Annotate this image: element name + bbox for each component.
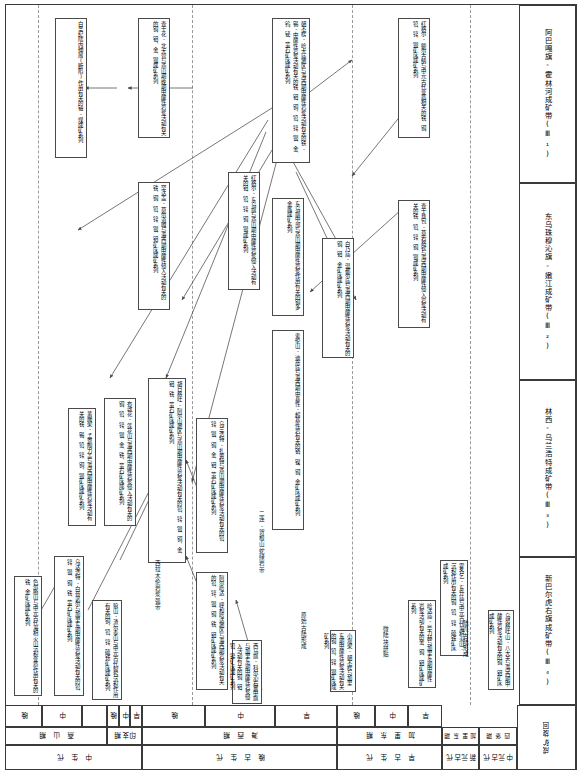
timescale-era-label: 晚 古 生 代 bbox=[214, 753, 265, 763]
ore-series-box: 狼山-渣尔泰山与中元古代裂谷沉积作用有关的铜、铅、锌、硫铁矿床成矿系列 bbox=[92, 600, 122, 700]
timescale-orogeny-label: 四 堡 期 bbox=[486, 732, 510, 740]
belt-header-label: 林西-乌兰浩特成矿带(Ⅲ₃) bbox=[542, 407, 553, 530]
timescale-epoch-cell: 中 bbox=[375, 705, 408, 727]
ore-series-box: 西乌旗-科尔沁右翼中旗与加里东期中酸性岩浆侵入活动有关的铜、钼、铅、锌矿床成矿系… bbox=[232, 640, 262, 704]
timescale-orogeny-label: 加 里 东 期 bbox=[444, 732, 476, 740]
timescale-orogeny-subcell: 四 堡 期 bbox=[479, 727, 517, 745]
tectonic-label-ophiolite: 二连-贺根山蛇绿岩带 bbox=[258, 510, 266, 620]
ore-series-text: 查干花-北大营与燕山期晚期中酸性岩浆活动有关的铜、钼、金、银成矿系列 bbox=[141, 21, 167, 136]
belt-header-III-2: 东乌珠穆沁旗-嫩江成矿带(Ⅲ₂) bbox=[519, 183, 576, 380]
timescale-epoch-cell: 中 bbox=[119, 705, 130, 727]
ore-series-text: 乌达浩特-白音诺尔与加里东期中酸性岩浆活动有关的铅、锌、银、铜、铁、萤石矿床成矿… bbox=[57, 559, 81, 694]
timescale-orogeny-label: 印支期 bbox=[113, 731, 136, 741]
ore-series-text: 胡日格吐-阿尔山地区与燕山期中酸性岩浆活动有关的铅、锌、银、铜、金、钼、铁、萤石… bbox=[151, 381, 183, 561]
ore-series-box: 白乃庙-温都尔庙与海西期中酸性岩浆活动有关的铜、钼、金矿床成矿系列 bbox=[322, 238, 354, 358]
ore-series-box: 哈达庙-毕力赫与加里东期中酸性岩浆活动有关的金、铜、钼矿床成矿系列 bbox=[408, 600, 436, 688]
timescale-era-cell: 中 生 代 bbox=[5, 745, 142, 770]
ore-series-box: 乌达浩特-白音诺尔与加里东期中酸性岩浆活动有关的铅、锌、银、铜、铁、萤石矿床成矿… bbox=[54, 556, 84, 696]
belt-header-label: 东乌珠穆沁旗-嫩江成矿带(Ⅲ₂) bbox=[542, 212, 553, 352]
tectonic-label-continent-formed: 陆壳古陆形成 bbox=[462, 620, 470, 690]
timescale-orogeny-label: 加 里 东 期 bbox=[364, 731, 415, 741]
ore-series-box: 罕达盖-莫尔道嘎与海西期中酸性侵入活动有关的铁、铜、铅、锌、银、钼矿床成矿系列 bbox=[138, 182, 170, 310]
timescale-epoch-label: 早 bbox=[301, 711, 310, 721]
ore-series-text: 红格尔-额尔古纳与中元古代变质相关的铁、铜、铅、锌、银矿床成矿系列 bbox=[401, 21, 427, 136]
ore-series-box: 阿尔哈达-呼和哈达地区与海西期岩浆活动有关的铅、锌、银、铜、铁、钼矿床成矿系列 bbox=[196, 572, 228, 690]
timescale-epoch-cell: 晚 bbox=[142, 705, 205, 727]
timescale-epoch-cell: 早 bbox=[130, 705, 142, 727]
ore-series-box: 小坝梁-朝不楞与加里东期中酸性岩浆活动有关的铜、铅、锌、银矿床成矿系列 bbox=[330, 630, 356, 692]
belt-header-label: 新巴尔虎右旗成矿带(Ⅲ₄) bbox=[542, 574, 553, 687]
timescale-era-label: 中 生 代 bbox=[55, 753, 92, 763]
timescale-era-cell: 早 古 生 代 bbox=[337, 745, 442, 770]
timescale-epoch-cell: 晚 bbox=[107, 705, 119, 727]
timescale-era-cell: 中元古代 bbox=[479, 745, 517, 770]
timescale-epoch-cell: 早 bbox=[275, 705, 337, 727]
timescale-corner-label: 成矿旋回 bbox=[542, 720, 552, 754]
ore-series-box: 查干花-北大营与燕山期晚期中酸性岩浆活动有关的铜、钼、金、银成矿系列 bbox=[138, 18, 170, 138]
ore-series-box: 色尔腾山与中元古代海相火山沉积变质作用有关的铁、金矿床成矿系列 bbox=[14, 576, 42, 696]
ore-series-text: 罕达盖-莫尔道嘎与海西期中酸性侵入活动有关的铁、铜、铅、锌、银、钼矿床成矿系列 bbox=[141, 185, 167, 308]
ore-series-text: 乌努格吐山-八大关与海西期中酸性岩浆活动有关的铜、钼矿床成矿系列 bbox=[491, 613, 511, 688]
ore-series-text: 朝不楞-哈大庙地区与海西期中酸性岩浆活动有关的铁-锡-中酸性岩浆活动有关的铁、钼… bbox=[275, 21, 307, 161]
timescale-orogeny-label: 海 西 期 bbox=[221, 731, 258, 741]
timescale-orogeny-cell: 印支期 bbox=[107, 727, 142, 745]
timescale-era-cell: 晚 古 生 代 bbox=[142, 745, 337, 770]
ore-series-box: 红格尔-东乌旗与燕山期中酸性岩浆侵入活动有关的钼、铅、锌、铜、银成矿系列 bbox=[228, 172, 260, 290]
timescale-epoch-label: 中 bbox=[235, 711, 244, 721]
timescale-epoch-cell: 中 bbox=[42, 705, 82, 727]
belt-header-III-1: 阿巴嘎旗-霍林河成矿带(Ⅲ₁) bbox=[519, 5, 576, 183]
timescale-orogeny-cell: 海 西 期 bbox=[142, 727, 337, 745]
metallogenic-evolution-figure: 白垩纪陆内伸展(断陷)作用有关的铀-煤成矿系列 查干花-北大营与燕山期晚期中酸性… bbox=[0, 0, 582, 777]
timescale-epoch-cell: 晚 bbox=[337, 705, 375, 727]
tectonic-label-primitive-continent: 原始古陆形成 bbox=[300, 612, 308, 682]
ore-series-box: 乌兰浩特-扎赉特与燕山期中酸性岩浆活动有关的铅、锌、银、铜、金、钼、萤石矿床成矿… bbox=[196, 418, 228, 553]
ore-series-box: 布敦花-莲花山与海西期中酸性岩浆侵入活动有关的铜、铅、锌、银、金、铁、萤石矿床成… bbox=[104, 398, 136, 526]
ore-series-text: 查干敖包-莫若格钦与海西期中酸性侵入岩浆活动有关的铁、铅、锌、铜、银成矿系列 bbox=[401, 203, 427, 326]
ore-series-text: 哈达庙-毕力赫与加里东期中酸性岩浆活动有关的金、铜、钼矿床成矿系列 bbox=[411, 603, 433, 686]
ore-series-text: 小坝梁-朝不楞与加里东期中酸性岩浆活动有关的铜、铅、锌、银矿床成矿系列 bbox=[333, 633, 353, 690]
ore-series-text: 西乌旗-科尔沁右翼中旗与加里东期中酸性岩浆侵入活动有关的铜、钼、铅、锌矿床成矿系… bbox=[235, 643, 259, 702]
timescale-corner-cell: 成矿旋回 bbox=[517, 705, 576, 770]
ore-series-text: 索伦山-迪彦庙与海西期中基性-超基性岩有关的铬、镍、铜、金矿床成矿系列 bbox=[275, 333, 301, 528]
belt-header-III-3: 林西-乌兰浩特成矿带(Ⅲ₃) bbox=[519, 380, 576, 557]
ore-series-box: 胡日格吐-阿尔山地区与燕山期中酸性岩浆活动有关的铅、锌、银、铜、金、钼、铁、萤石… bbox=[148, 378, 186, 563]
timescale-epoch-label: 早 bbox=[420, 711, 429, 721]
timescale-epoch-cell: 中 bbox=[205, 705, 275, 727]
timescale-era-label: 早 古 生 代 bbox=[364, 753, 415, 763]
ore-series-box: 查干敖包-莫若格钦与海西期中酸性侵入岩浆活动有关的铁、铅、锌、铜、银成矿系列 bbox=[398, 200, 430, 328]
timescale-epoch-label: 早 bbox=[132, 711, 140, 721]
ore-series-box: 朝不楞-哈大庙地区与海西期中酸性岩浆活动有关的铁-锡-中酸性岩浆活动有关的铁、钼… bbox=[272, 18, 310, 163]
ore-series-box: 乌努格吐山-八大关与海西期中酸性岩浆活动有关的铜、钼矿床成矿系列 bbox=[488, 610, 514, 690]
ore-series-text: 色尔腾山与中元古代海相火山沉积变质作用有关的铁、金矿床成矿系列 bbox=[17, 579, 39, 694]
timescale-orogeny-cell: 加 里 东 期 bbox=[337, 727, 442, 745]
timescale-epoch-label: 中 bbox=[121, 711, 129, 721]
timescale-epoch-label: 晚 bbox=[351, 711, 360, 721]
ore-series-text: 黄岗梁-孟恩陶力盖与海西期中酸性岩浆活动有关的铁、锡、铅、锌、铜、银矿床成矿系列 bbox=[71, 411, 93, 524]
ore-series-box: 索伦山-迪彦庙与海西期中基性-超基性岩有关的铬、镍、铜、金矿床成矿系列 bbox=[272, 330, 304, 530]
timescale-orogeny-subcell: 加 里 东 期 bbox=[442, 727, 479, 745]
ore-series-text: 布敦花-莲花山与海西期中酸性岩浆侵入活动有关的铜、铅、锌、银、金、铁、萤石矿床成… bbox=[107, 401, 133, 524]
ore-series-text: 东乌旗中部与燕山期中酸性岩浆作用有关的铜多金属成矿系列 bbox=[275, 201, 301, 314]
tectonic-label-microblock: 微陆块拼贴 bbox=[382, 626, 390, 686]
tectonic-label-magmatic-arc: 西拉木伦岩浆弧带 bbox=[154, 560, 162, 652]
belt-divider-4 bbox=[470, 5, 471, 705]
ore-series-text: 乌兰浩特-扎赉特与燕山期中酸性岩浆活动有关的铅、锌、银、铜、金、钼、萤石矿床成矿… bbox=[199, 421, 225, 551]
timescale-orogeny-label: 燕 山 期 bbox=[37, 731, 74, 741]
ore-series-box: 黄岗梁-孟恩陶力盖与海西期中酸性岩浆活动有关的铁、锡、铅、锌、铜、银矿床成矿系列 bbox=[68, 408, 96, 526]
timescale-era-label: 新元古代 bbox=[445, 753, 476, 763]
ore-series-box: 白垩纪陆内伸展(断陷)作用有关的铀-煤成矿系列 bbox=[55, 18, 87, 158]
timescale-epoch-label: 晚 bbox=[109, 711, 117, 721]
timescale-epoch-cell: 早 bbox=[408, 705, 442, 727]
timescale-orogeny-cell: 燕 山 期 bbox=[5, 727, 107, 745]
ore-series-text: 白垩纪陆内伸展(断陷)作用有关的铀-煤成矿系列 bbox=[58, 21, 84, 156]
timescale-epoch-label: 中 bbox=[57, 711, 66, 721]
timescale-era-label: 中元古代 bbox=[482, 753, 513, 763]
ore-series-box: 红格尔-额尔古纳与中元古代变质相关的铁、铜、铅、锌、银矿床成矿系列 bbox=[398, 18, 430, 138]
timescale-epoch-cell bbox=[82, 705, 107, 727]
timescale-epoch-label: 晚 bbox=[19, 711, 28, 721]
ore-series-text: 红格尔-东乌旗与燕山期中酸性岩浆侵入活动有关的钼、铅、锌、铜、银成矿系列 bbox=[231, 175, 257, 288]
ore-series-text: 阿尔哈达-呼和哈达地区与海西期岩浆活动有关的铅、锌、银、铜、铁、钼矿床成矿系列 bbox=[199, 575, 225, 688]
header-strip-outer bbox=[576, 5, 577, 705]
ore-series-box: 东乌旗中部与燕山期中酸性岩浆作用有关的铜多金属成矿系列 bbox=[272, 198, 304, 316]
ore-series-text: 狼山-渣尔泰山与中元古代裂谷沉积作用有关的铜、铅、锌、硫铁矿床成矿系列 bbox=[95, 603, 119, 698]
